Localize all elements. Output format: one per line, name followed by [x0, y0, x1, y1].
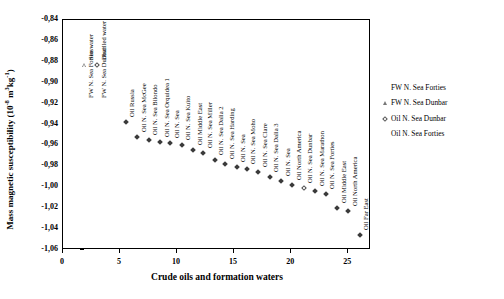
legend-item-label: FW N. Sea Dunbar	[391, 99, 500, 107]
y-tick-label: -0,94	[24, 120, 58, 128]
x-tick-label: 15	[218, 257, 248, 266]
data-point-label: Oil Middle East	[340, 161, 347, 203]
x-tick-mark	[233, 249, 234, 253]
annotation-label: FW N. Sea Dunbar	[100, 47, 107, 97]
y-tick-label: -1,06	[24, 245, 58, 253]
legend-item-label: Oil N. Sea Forties	[391, 130, 500, 138]
data-point-label: Oil N. Sea Orquidea 1	[163, 78, 170, 137]
data-point-label: Oil N. Sea	[284, 148, 291, 176]
legend-item: Oil N. Sea Forties	[382, 130, 500, 138]
y-tick-mark	[80, 249, 84, 250]
x-tick-label: 5	[104, 257, 134, 266]
y-tick-label: -1,00	[24, 182, 58, 190]
x-tick-mark	[347, 249, 348, 253]
data-point-label: Oil Russia	[128, 89, 135, 117]
y-tick-label: -1,04	[24, 224, 58, 232]
legend-marker-blank-icon	[382, 84, 391, 92]
figure-scatter-chart: Mass magnetic susceptibility (10-8 m3kg-…	[0, 0, 504, 299]
data-point-label: Oil N. Sea Dalia 2	[217, 106, 224, 155]
legend-item-label: Oil N. Sea Dunbar	[391, 115, 500, 123]
data-point-label: Oil N. Sea Bilondo	[151, 84, 158, 135]
x-tick-label: 20	[275, 257, 305, 266]
data-point-label: Oil North America	[351, 156, 358, 205]
x-tick-mark	[176, 249, 177, 253]
data-point-label: Oil N. Sea Forties	[328, 141, 335, 189]
legend-marker-triangle-open-icon	[382, 99, 391, 107]
y-axis-ticks: -0,84-0,86-0,88-0,90-0,92-0,94-0,96-0,98…	[22, 0, 58, 299]
data-point	[82, 63, 86, 67]
data-point-label: Oil N. Sea Dalia 3	[272, 124, 279, 173]
legend: FW N. Sea FortiesFW N. Sea DunbarOil N. …	[382, 84, 500, 146]
x-tick-label: 10	[161, 257, 191, 266]
data-point-label: Oil Middle East	[196, 103, 203, 145]
y-axis-title: Mass magnetic susceptibility (10-8 m3kg-…	[0, 0, 18, 299]
legend-item: Oil N. Sea Dunbar	[382, 115, 500, 123]
data-point-label: Oil N. Sea Dunbar	[306, 134, 313, 183]
data-point-label: Oil N. Sea Kuito	[184, 96, 191, 140]
data-point-label: Oil N. Sea Clare	[261, 124, 268, 168]
y-tick-label: -0,84	[24, 15, 58, 23]
data-point-label: Oil Far East	[362, 198, 369, 230]
data-point-label: Oil N. Sea McGee	[140, 83, 147, 132]
data-point-label: Oil N. Sea Moho	[249, 119, 256, 164]
y-tick-label: -1,02	[24, 203, 58, 211]
y-axis-title-text: Mass magnetic susceptibility (10-8 m3kg-…	[3, 69, 15, 230]
data-point-label: Oil N. Sea Miller	[206, 103, 213, 149]
data-point-label: Oil North America	[295, 130, 302, 179]
annotation-label: FW N. Sea Forties	[87, 49, 94, 98]
legend-item: FW N. Sea Forties	[382, 84, 500, 92]
y-tick-label: -0,86	[24, 36, 58, 44]
legend-marker-blank-icon	[382, 130, 391, 138]
data-point-label: Oil N. Sea Harding	[228, 108, 235, 159]
x-tick-mark	[62, 249, 63, 253]
legend-item-label: FW N. Sea Forties	[391, 84, 500, 92]
x-tick-label: 25	[332, 257, 362, 266]
x-tick-mark	[290, 249, 291, 253]
legend-marker-diamond-open-icon	[382, 115, 391, 123]
data-point-label: Oil N. Sea Marathon	[318, 131, 325, 186]
legend-item: FW N. Sea Dunbar	[382, 99, 500, 107]
x-axis-title: Crude oils and formation waters	[62, 272, 372, 282]
x-tick-mark	[119, 249, 120, 253]
data-point-label: Oil N. Sea	[239, 134, 246, 162]
x-tick-label: 0	[47, 257, 77, 266]
y-tick-label: -0,98	[24, 161, 58, 169]
y-tick-label: -0,90	[24, 78, 58, 86]
y-tick-label: -0,96	[24, 140, 58, 148]
y-tick-label: -0,92	[24, 99, 58, 107]
y-tick-label: -0,88	[24, 57, 58, 65]
data-point-label: Oil N. Sea	[173, 110, 180, 138]
